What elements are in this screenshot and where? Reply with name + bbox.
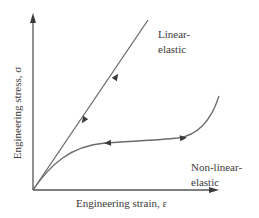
linear-elastic-label-line1: Linear-: [158, 28, 190, 40]
linear-elastic-series: [33, 20, 148, 190]
linear-elastic-label-line2: elastic: [158, 43, 186, 55]
nonlinear-elastic-label-line1: Non-linear-: [191, 161, 242, 173]
unloading-arrow-icon: [104, 140, 111, 146]
loading-arrow-icon: [112, 72, 121, 81]
x-axis-label: Engineering strain, ε: [76, 197, 167, 209]
stress-strain-diagram: Linear- elastic Non-linear- elastic Engi…: [0, 0, 259, 218]
y-axis: [30, 13, 36, 190]
y-axis-arrow-icon: [30, 13, 36, 23]
y-axis-label: Engineering stress, σ: [11, 67, 23, 159]
nonlinear-elastic-label-line2: elastic: [191, 176, 219, 188]
